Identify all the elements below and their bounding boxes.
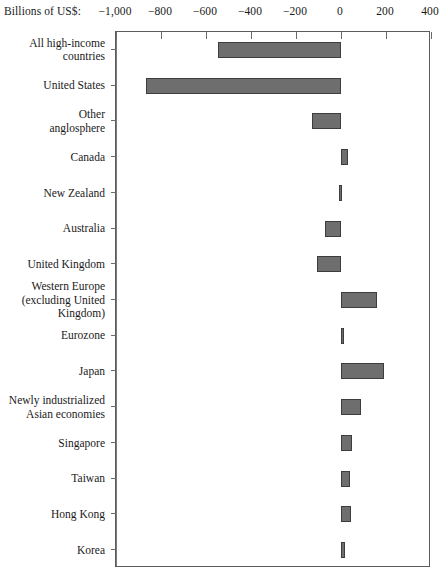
category-tick-mark (111, 85, 116, 86)
bar (341, 471, 350, 487)
category-label: Hong Kong (0, 508, 105, 522)
x-tick-mark (161, 32, 162, 39)
x-tick-mark (206, 32, 207, 39)
category-label: United Kingdom (0, 258, 105, 272)
bar (341, 292, 377, 308)
category-label: New Zealand (0, 187, 105, 201)
plot-area: All high-income countriesUnited StatesOt… (115, 31, 430, 567)
category-label: Canada (0, 151, 105, 165)
bar (146, 78, 341, 94)
zero-reference-line (116, 32, 117, 566)
x-tick-label: −400 (238, 5, 262, 17)
category-tick-mark (111, 156, 116, 157)
x-tick-label: −600 (193, 5, 217, 17)
category-tick-mark (111, 299, 116, 300)
x-tick-label: 400 (421, 5, 439, 17)
category-tick-mark (111, 549, 116, 550)
bar (325, 221, 341, 237)
x-tick-label: −200 (283, 5, 307, 17)
x-tick-mark (296, 32, 297, 39)
category-tick-mark (111, 263, 116, 264)
category-label: United States (0, 79, 105, 93)
category-tick-mark (111, 335, 116, 336)
bar (341, 149, 348, 165)
bar (341, 435, 352, 451)
x-tick-mark (431, 32, 432, 39)
x-tick-mark (251, 32, 252, 39)
x-tick-mark (386, 32, 387, 39)
category-label: Other anglosphere (0, 108, 105, 135)
category-label: Eurozone (0, 329, 105, 343)
category-tick-mark (111, 192, 116, 193)
bar (312, 113, 341, 129)
category-label: Western Europe (excluding United Kingdom… (0, 280, 105, 321)
x-tick-label: 0 (337, 5, 343, 17)
x-tick-mark (341, 32, 342, 39)
bar (317, 256, 341, 272)
category-label: Australia (0, 222, 105, 236)
category-label: All high-income countries (0, 37, 105, 64)
category-tick-mark (111, 228, 116, 229)
bar (218, 42, 341, 58)
category-tick-mark (111, 513, 116, 514)
bar (341, 328, 344, 344)
category-tick-mark (111, 442, 116, 443)
bar (341, 399, 361, 415)
chart-container: Billions of US$: −1,000−800−600−400−2000… (0, 0, 448, 582)
bar (341, 542, 345, 558)
category-label: Newly industrialized Asian economies (0, 394, 105, 421)
category-label: Singapore (0, 437, 105, 451)
axis-units-caption: Billions of US$: (4, 5, 81, 17)
category-tick-mark (111, 49, 116, 50)
bar (341, 363, 384, 379)
x-tick-label: −1,000 (99, 5, 132, 17)
category-label: Japan (0, 365, 105, 379)
bar (341, 506, 351, 522)
x-tick-label: 200 (376, 5, 394, 17)
category-tick-mark (111, 120, 116, 121)
category-tick-mark (111, 478, 116, 479)
category-tick-mark (111, 406, 116, 407)
x-tick-label: −800 (148, 5, 172, 17)
bar (339, 185, 342, 201)
category-label: Taiwan (0, 472, 105, 486)
x-tick-mark (116, 32, 117, 39)
category-tick-mark (111, 370, 116, 371)
category-label: Korea (0, 544, 105, 558)
